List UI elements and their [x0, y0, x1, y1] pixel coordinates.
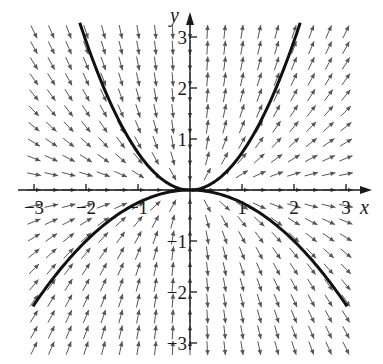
- field-arrow: [30, 311, 37, 323]
- field-arrow: [325, 295, 332, 307]
- field-arrow: [275, 326, 280, 339]
- field-arrow: [171, 152, 176, 166]
- field-arrow: [99, 247, 107, 259]
- field-arrow: [66, 41, 72, 54]
- field-arrow: [340, 139, 352, 146]
- field-arrow: [223, 57, 228, 71]
- field-arrow: [65, 89, 73, 101]
- field-arrow: [62, 172, 76, 176]
- field-arrow: [29, 249, 40, 258]
- field-arrow: [254, 217, 264, 226]
- field-arrow: [219, 201, 229, 210]
- field-arrow: [223, 310, 228, 324]
- field-arrow: [205, 294, 210, 308]
- field-arrow: [291, 279, 298, 291]
- field-arrow: [83, 73, 89, 86]
- field-arrow: [132, 171, 144, 178]
- field-arrow: [291, 89, 298, 101]
- field-arrow: [101, 326, 106, 339]
- field-arrow: [254, 154, 264, 163]
- field-arrow: [290, 105, 298, 117]
- field-arrow: [65, 295, 72, 307]
- field-arrow: [274, 57, 279, 70]
- field-arrow: [153, 72, 158, 86]
- field-arrow: [322, 219, 335, 225]
- field-arrow: [257, 263, 263, 276]
- field-arrow: [205, 72, 210, 86]
- y-axis-label: y: [168, 4, 179, 27]
- field-arrow: [257, 57, 262, 71]
- field-arrow: [45, 203, 59, 207]
- field-arrow: [309, 326, 315, 339]
- field-arrow: [171, 262, 176, 276]
- field-arrow: [223, 294, 228, 308]
- field-arrow: [153, 41, 158, 55]
- field-arrow: [223, 120, 228, 134]
- field-arrow: [292, 326, 297, 339]
- field-arrow: [136, 294, 140, 308]
- field-arrow: [341, 106, 351, 116]
- field-arrow: [240, 57, 245, 71]
- field-arrow: [31, 42, 38, 54]
- x-tick-label: −2: [76, 197, 96, 218]
- field-arrow: [48, 57, 55, 69]
- field-arrow: [240, 262, 245, 275]
- field-arrow: [153, 120, 158, 134]
- field-arrow: [223, 72, 228, 86]
- field-arrow: [136, 73, 140, 87]
- field-arrow: [98, 154, 109, 162]
- field-arrow: [30, 58, 37, 70]
- field-arrow: [135, 247, 141, 260]
- field-arrow: [240, 325, 245, 339]
- field-arrow: [221, 215, 228, 227]
- field-arrow: [171, 215, 176, 229]
- field-arrow: [343, 26, 349, 39]
- field-arrow: [272, 232, 281, 242]
- field-arrow: [84, 341, 89, 354]
- field-arrow: [307, 105, 316, 116]
- field-arrow: [257, 89, 262, 102]
- x-axis-label: x: [359, 196, 369, 218]
- field-arrow: [171, 104, 176, 118]
- field-arrow: [205, 41, 210, 55]
- field-arrow: [342, 90, 351, 101]
- field-arrow: [83, 89, 90, 101]
- field-arrow: [255, 232, 263, 243]
- field-arrow: [100, 105, 107, 117]
- field-arrow: [341, 264, 351, 274]
- field-arrow: [46, 233, 58, 241]
- field-arrow: [117, 137, 125, 148]
- field-arrow: [275, 41, 280, 54]
- field-arrow: [326, 342, 332, 355]
- field-arrow: [66, 310, 72, 323]
- field-arrow: [114, 203, 127, 209]
- field-arrow: [223, 41, 228, 55]
- field-arrow: [325, 310, 332, 322]
- field-arrow: [101, 310, 106, 323]
- field-arrow: [48, 73, 55, 85]
- field-arrow: [274, 294, 279, 307]
- field-arrow: [305, 171, 319, 175]
- x-tick-label: −3: [24, 197, 44, 218]
- field-arrow: [292, 341, 297, 354]
- field-arrow: [287, 171, 300, 176]
- field-arrow: [97, 172, 110, 177]
- field-arrow: [343, 342, 349, 355]
- field-arrow: [343, 326, 350, 338]
- field-arrow: [223, 246, 228, 260]
- field-arrow: [136, 104, 141, 117]
- field-arrow: [136, 41, 141, 55]
- field-arrow: [257, 73, 262, 86]
- field-arrow: [62, 218, 74, 224]
- field-arrow: [273, 263, 280, 275]
- field-arrow: [205, 231, 210, 245]
- field-arrow: [205, 341, 210, 355]
- field-arrow: [48, 326, 54, 339]
- y-axis-arrowhead-icon: [186, 12, 194, 25]
- field-arrow: [66, 326, 72, 339]
- field-arrow: [240, 294, 244, 308]
- field-arrow: [205, 309, 210, 323]
- field-arrow: [101, 57, 106, 70]
- field-arrow: [270, 203, 283, 208]
- field-arrow: [240, 104, 245, 117]
